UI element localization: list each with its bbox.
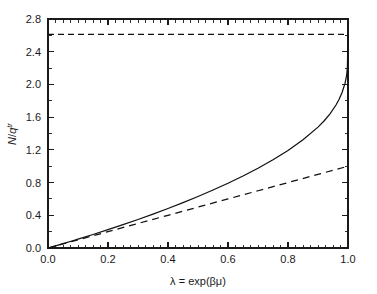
x-axis-major-ticks [48, 19, 348, 248]
y-tick-label: 2.4 [26, 46, 41, 58]
y-axis-minor-ticks [48, 35, 348, 231]
y-tick-label: 0.4 [26, 209, 41, 221]
chart-figure: 0.00.20.40.60.81.0 0.00.40.81.21.62.02.4… [0, 0, 377, 294]
x-axis-title: λ = exp(βμ) [170, 275, 226, 287]
y-tick-label: 1.2 [26, 144, 41, 156]
x-tick-label: 0.2 [100, 253, 115, 265]
x-tick-label: 0.8 [280, 253, 295, 265]
y-tick-label: 2.0 [26, 78, 41, 90]
y-tick-label: 2.8 [26, 13, 41, 25]
y-axis-title: N/qtr [5, 123, 18, 145]
y-axis-title-group: N/qtr [5, 123, 18, 145]
series-classical-line [48, 166, 348, 248]
x-tick-label: 0.0 [40, 253, 55, 265]
x-axis-title-group: λ = exp(βμ) [170, 275, 226, 287]
y-tick-label: 0.0 [26, 242, 41, 254]
y-axis-major-ticks [48, 19, 348, 248]
plot-frame [48, 19, 348, 248]
x-axis-tick-labels: 0.00.20.40.60.81.0 [40, 253, 355, 265]
y-tick-label: 1.6 [26, 111, 41, 123]
series-bose-einstein-line [48, 34, 348, 248]
data-series-group [48, 34, 348, 248]
x-tick-label: 0.4 [160, 253, 175, 265]
y-tick-label: 0.8 [26, 177, 41, 189]
y-axis-title-superscript: tr [5, 123, 14, 128]
y-axis-tick-labels: 0.00.40.81.21.62.02.42.8 [26, 13, 41, 254]
x-axis-minor-ticks [56, 19, 341, 248]
y-axis-title-numerator: N [6, 137, 18, 145]
x-tick-label: 1.0 [340, 253, 355, 265]
x-tick-label: 0.6 [220, 253, 235, 265]
chart-canvas: 0.00.20.40.60.81.0 0.00.40.81.21.62.02.4… [0, 0, 377, 294]
